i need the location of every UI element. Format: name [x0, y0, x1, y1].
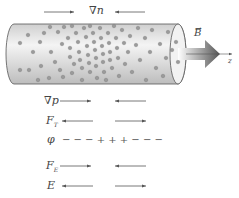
row-label-grad-p: ∇p: [44, 94, 59, 107]
row-label-phi: φ: [47, 133, 55, 146]
plasma-cylinder: [6, 24, 186, 84]
f-e-sub: E: [54, 166, 58, 173]
f-t-sub: T: [54, 121, 58, 128]
diagram-canvas: [0, 0, 239, 198]
f-t-symbol: F: [46, 114, 54, 127]
f-e-symbol: F: [46, 159, 54, 172]
row-label-f-e: FE: [46, 159, 58, 173]
row-label-e: E: [47, 179, 55, 192]
charge-distribution: − − − + + + − − −: [62, 134, 163, 145]
gradient-n-label: ∇n: [89, 4, 104, 17]
z-axis-label: z: [228, 57, 232, 65]
row-label-f-t: FT: [46, 114, 58, 128]
magnetic-field-arrow: [178, 40, 232, 68]
vector-mark: →: [195, 24, 202, 33]
